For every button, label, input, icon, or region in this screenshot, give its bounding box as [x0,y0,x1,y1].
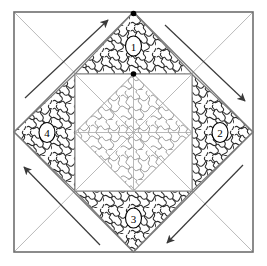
diagram-canvas: 1 2 3 4 [0,0,267,266]
flap-label-3-text: 3 [131,213,137,225]
inner-crease-lines [75,74,192,191]
dot-diamond-apex [131,11,137,17]
flap-label-2: 2 [212,123,228,143]
flap-label-1: 1 [126,36,142,56]
flap-label-4: 4 [39,123,55,143]
flap-label-1-text: 1 [131,41,137,53]
flap-label-3: 3 [126,208,142,228]
origami-diagram: 1 2 3 4 [0,0,267,266]
flap-label-4-text: 4 [44,127,50,139]
flap-label-2-text: 2 [217,127,223,139]
dot-square-apex [131,71,137,77]
